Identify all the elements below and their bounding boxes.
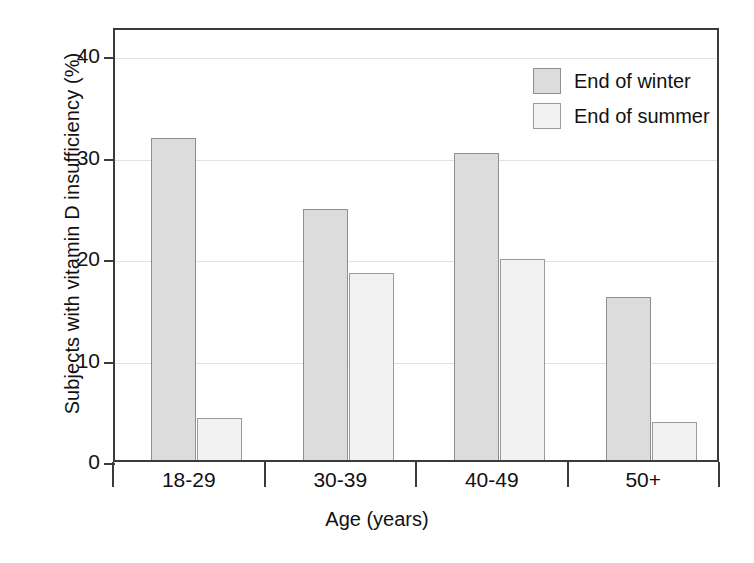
x-axis-separator-3 [567, 462, 569, 487]
bar-18-29-end-of-summer [197, 418, 242, 460]
x-tick-label-50-: 50+ [625, 468, 661, 492]
x-tick-label-30-39: 30-39 [313, 468, 367, 492]
y-tick-label-10: 10 [77, 349, 100, 373]
x-axis-separator-0 [112, 462, 114, 487]
legend-label-end-of-summer: End of summer [574, 105, 710, 128]
y-tick-mark-20 [104, 260, 115, 262]
legend-label-end-of-winter: End of winter [574, 70, 691, 93]
bar-30-39-end-of-summer [349, 273, 394, 460]
x-axis-separator-4 [718, 462, 720, 487]
y-tick-label-0: 0 [88, 450, 100, 474]
y-axis-tick-labels: 010203040 [0, 0, 100, 563]
bar-50--end-of-winter [606, 297, 651, 460]
y-tick-mark-10 [104, 362, 115, 364]
y-tick-mark-30 [104, 159, 115, 161]
legend-item-end-of-summer: End of summer [533, 103, 710, 129]
gridline-20 [115, 261, 717, 262]
x-axis-separator-2 [415, 462, 417, 487]
legend-swatch-end-of-winter [533, 68, 561, 94]
legend-item-end-of-winter: End of winter [533, 68, 710, 94]
bar-chart-figure: Subjects with vitamin D insufficiency (%… [0, 0, 754, 563]
bar-18-29-end-of-winter [151, 138, 196, 460]
x-tick-label-40-49: 40-49 [465, 468, 519, 492]
x-axis-separator-1 [264, 462, 266, 487]
chart-legend: End of winter End of summer [533, 68, 710, 129]
bar-40-49-end-of-summer [500, 259, 545, 460]
bar-40-49-end-of-winter [454, 153, 499, 460]
gridline-40 [115, 58, 717, 59]
y-tick-mark-40 [104, 57, 115, 59]
x-axis-title: Age (years) [0, 508, 754, 531]
y-tick-label-30: 30 [77, 146, 100, 170]
bar-30-39-end-of-winter [303, 209, 348, 460]
y-tick-label-40: 40 [77, 44, 100, 68]
y-tick-label-20: 20 [77, 247, 100, 271]
legend-swatch-end-of-summer [533, 103, 561, 129]
gridline-30 [115, 160, 717, 161]
bar-50--end-of-summer [652, 422, 697, 460]
x-tick-label-18-29: 18-29 [162, 468, 216, 492]
